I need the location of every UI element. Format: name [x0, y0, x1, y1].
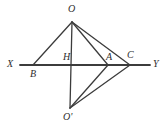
ray-label-Y: Y [153, 59, 159, 69]
ray-label-X: X [7, 59, 13, 69]
segment-O-prime-to-C [70, 65, 130, 108]
vertex-label-O: O [68, 4, 75, 14]
geometry-figure: O O' X Y B H A C [0, 0, 164, 133]
vertex-label-H: H [63, 52, 70, 62]
segment-O-prime-to-A [70, 65, 108, 108]
vertex-label-C: C [127, 50, 134, 60]
segment-O-to-A [72, 22, 108, 65]
vertex-label-O-prime: O' [63, 112, 72, 122]
segment-O-to-C [72, 22, 130, 65]
geometry-canvas [0, 0, 164, 133]
vertex-label-A: A [106, 52, 112, 62]
vertex-label-B: B [30, 69, 36, 79]
